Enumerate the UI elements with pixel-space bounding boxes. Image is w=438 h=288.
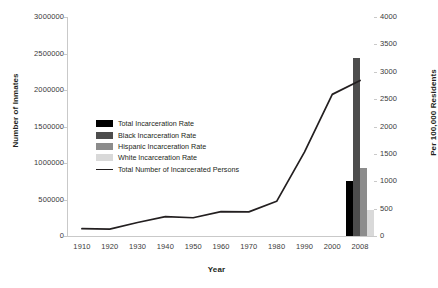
y-axis-right-tick-label: 1000 xyxy=(380,176,420,185)
legend-item: White Incarceration Rate xyxy=(96,152,281,163)
legend-line-marker-icon xyxy=(96,166,113,173)
legend-item-label: Black Incarceration Rate xyxy=(118,131,196,140)
y-axis-left-tick-label: 1000000 xyxy=(8,158,64,167)
y-axis-right-tickmark xyxy=(374,99,377,100)
y-axis-right-tickmark xyxy=(374,44,377,45)
y-axis-left-tickmark xyxy=(64,236,67,237)
y-axis-left-tick-label: 1500000 xyxy=(8,122,64,131)
x-axis-tick-label: 2008 xyxy=(340,242,380,251)
y-axis-left-tick-label: 3000000 xyxy=(8,12,64,21)
y-axis-right-tickmark xyxy=(374,236,377,237)
legend-item-label: White Incarceration Rate xyxy=(118,153,197,162)
y-axis-right-tick-label: 500 xyxy=(380,204,420,213)
y-axis-right-tick-label: 0 xyxy=(380,231,420,240)
y-axis-left-tickmark xyxy=(64,54,67,55)
legend-item: Total Incarceration Rate xyxy=(96,118,281,129)
y-axis-left-tick-label: 2500000 xyxy=(8,49,64,58)
y-axis-right-tickmark xyxy=(374,17,377,18)
legend-swatch-icon xyxy=(96,132,113,139)
legend-swatch-icon xyxy=(96,143,113,150)
y-axis-right-tick-label: 2500 xyxy=(380,94,420,103)
y-axis-left-tickmark xyxy=(64,17,67,18)
y-axis-left-title: Number of Inmates xyxy=(11,61,20,161)
y-axis-right-tick-label: 4000 xyxy=(380,12,420,21)
y-axis-left-tickmark xyxy=(64,163,67,164)
legend-item: Black Incarceration Rate xyxy=(96,129,281,140)
y-axis-left-tickmark xyxy=(64,127,67,128)
legend-item-label: Total Incarceration Rate xyxy=(118,119,194,128)
legend-item-label: Hispanic Incarceration Rate xyxy=(118,142,206,151)
y-axis-right-tick-label: 3500 xyxy=(380,39,420,48)
y-axis-right-tick-label: 2000 xyxy=(380,122,420,131)
legend-swatch-icon xyxy=(96,154,113,161)
y-axis-right-tickmark xyxy=(374,154,377,155)
y-axis-left-tick-label: 500000 xyxy=(8,195,64,204)
x-axis-line xyxy=(67,236,375,237)
y-axis-left-tick-label: 2000000 xyxy=(8,85,64,94)
legend-item: Total Number of Incarcerated Persons xyxy=(96,164,281,175)
x-axis-title: Year xyxy=(0,265,433,274)
y-axis-right-tickmark xyxy=(374,209,377,210)
legend-item: Hispanic Incarceration Rate xyxy=(96,141,281,152)
legend-swatch-icon xyxy=(96,120,113,127)
y-axis-left-tickmark xyxy=(64,90,67,91)
y-axis-right-tickmark xyxy=(374,127,377,128)
y-axis-left-tickmark xyxy=(64,200,67,201)
y-axis-right-tick-label: 1500 xyxy=(380,149,420,158)
y-axis-right-tick-label: 3000 xyxy=(380,67,420,76)
y-axis-left-tick-label: 0 xyxy=(8,231,64,240)
y-axis-right-tickmark xyxy=(374,181,377,182)
y-axis-right-tickmark xyxy=(374,72,377,73)
legend-item-label: Total Number of Incarcerated Persons xyxy=(118,165,239,174)
chart-legend: Total Incarceration RateBlack Incarcerat… xyxy=(96,118,281,175)
y-axis-right-title: Per 100,000 Residents xyxy=(429,53,438,173)
